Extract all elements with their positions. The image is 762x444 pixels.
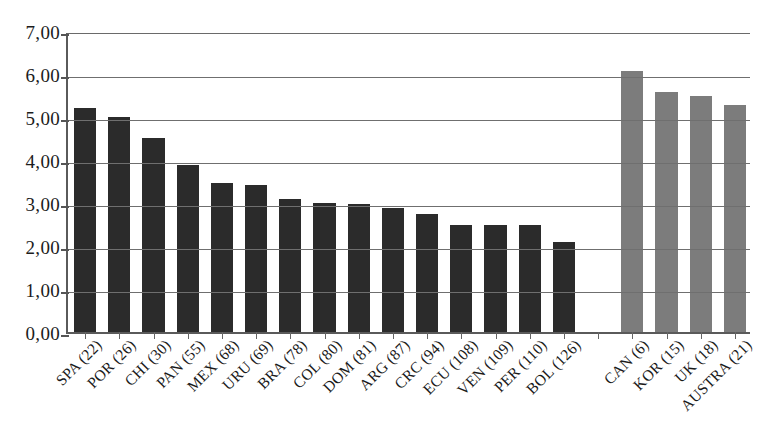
y-axis-labels: 0,001,002,003,004,005,006,007,00 (0, 0, 60, 444)
bar (484, 225, 506, 333)
y-axis-tick-label: 4,00 (0, 151, 60, 173)
y-axis-tick-label: 0,00 (0, 323, 60, 345)
y-axis-tick (61, 34, 69, 36)
bar (142, 138, 164, 332)
y-axis-tick-label: 2,00 (0, 237, 60, 259)
y-axis-tick-label: 6,00 (0, 65, 60, 87)
bar (74, 108, 96, 332)
gridline (68, 249, 750, 250)
y-axis-tick-label: 1,00 (0, 280, 60, 302)
bars-layer (68, 34, 750, 332)
gridline (68, 120, 750, 121)
x-axis-labels: SPA (22)POR (26)CHI (30)PAN (55)MEX (68)… (66, 336, 750, 444)
gridline (68, 163, 750, 164)
bar (416, 214, 438, 332)
bar (690, 96, 712, 332)
bar (450, 225, 472, 333)
y-axis-tick (61, 206, 69, 208)
y-axis-tick (61, 163, 69, 165)
gridline (68, 77, 750, 78)
gridline (68, 292, 750, 293)
y-axis-tick (61, 120, 69, 122)
bar (348, 204, 370, 332)
bar (382, 208, 404, 332)
bar (724, 105, 746, 332)
y-axis-tick (61, 77, 69, 79)
gridline (68, 206, 750, 207)
bar (313, 203, 335, 332)
bar (553, 242, 575, 332)
y-axis-tick-label: 5,00 (0, 108, 60, 130)
bar (108, 117, 130, 332)
y-axis-tick-label: 3,00 (0, 194, 60, 216)
y-axis-tick-label: 7,00 (0, 22, 60, 44)
y-axis-tick (61, 292, 69, 294)
bar (519, 225, 541, 333)
plot-area (66, 33, 750, 334)
bar-chart: 0,001,002,003,004,005,006,007,00 SPA (22… (0, 0, 762, 444)
bar (279, 199, 301, 332)
bar (655, 92, 677, 332)
y-axis-tick (61, 249, 69, 251)
